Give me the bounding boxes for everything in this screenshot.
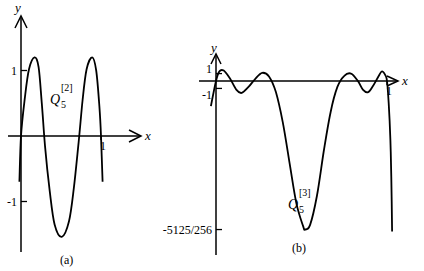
y-tick-label: 1 <box>11 64 17 78</box>
y-tick-label: 1 <box>206 62 212 76</box>
curve-label-b: Q 5 [3] <box>288 187 311 215</box>
curve-label-a: Q 5 [2] <box>50 82 73 110</box>
y-axis-label-a: y <box>13 0 21 15</box>
y-tick-label: -5125/256 <box>163 223 212 237</box>
curve-label-a-base: Q <box>50 92 60 107</box>
caption-b: (b) <box>292 241 306 255</box>
curve-label-a-sub: 5 <box>61 99 66 110</box>
y-tick-label: -1 <box>7 195 17 209</box>
y-tick-label: -1 <box>202 88 212 102</box>
y-axis-label-b: y <box>209 40 217 55</box>
figure: x y 11-1 Q 5 [2] (a) x y 11-1-5125/256 Q… <box>0 0 424 271</box>
curve-label-b-sup: [3] <box>299 187 311 198</box>
panel-a: x y 11-1 Q 5 [2] (a) <box>7 0 151 267</box>
panel-b: x y 11-1-5125/256 Q 5 [3] (b) <box>163 40 408 255</box>
x-axis-label-b: x <box>401 73 408 88</box>
curve-label-a-sup: [2] <box>61 82 73 93</box>
caption-a: (a) <box>60 253 73 267</box>
x-axis-label-a: x <box>144 128 151 143</box>
curve-label-b-sub: 5 <box>299 204 304 215</box>
curve-label-b-base: Q <box>288 197 298 212</box>
